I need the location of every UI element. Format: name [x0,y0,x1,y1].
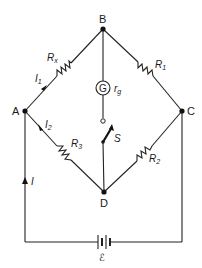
r2-label: R2 [149,153,160,165]
node-b-label: B [99,13,106,25]
resistor-rx-icon [57,61,71,76]
wheatstone-bridge-diagram: G A B C D Rx R1 R3 R2 rg S ℰ I1 [0,0,202,268]
resistor-r3-icon [57,146,71,160]
current-i1-label: I1 [35,73,42,85]
resistor-r1-icon [138,62,153,76]
battery-label: ℰ [99,252,105,263]
rx-label: Rx [47,52,58,64]
r3-label: R3 [71,138,82,150]
galvanometer-resistance-label: rg [114,83,121,96]
node-a [22,108,27,113]
node-a-label: A [12,105,20,117]
node-d [101,189,106,194]
node-b [100,26,105,31]
switch-label: S [114,133,121,144]
current-i-arrow-icon [22,177,28,184]
branch-b-d: G [96,29,114,192]
node-c-label: C [187,105,195,117]
branch-d-c [104,111,182,192]
current-i-label: I [31,176,34,187]
branch-a-b [25,29,103,111]
current-i2-arrow-icon [38,124,43,131]
node-c [179,108,184,113]
branch-b-c [103,29,182,111]
current-i2-label: I2 [45,119,52,131]
galvanometer-symbol: G [99,83,107,94]
branch-a-d [25,111,104,192]
battery-icon [98,235,110,249]
node-d-label: D [100,197,108,209]
r1-label: R1 [155,59,166,71]
switch-terminal-icon [101,119,105,123]
